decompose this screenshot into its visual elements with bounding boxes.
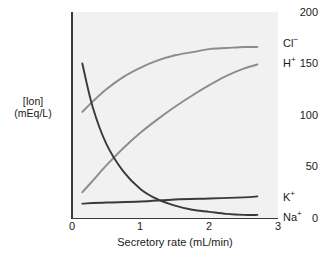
y-axis-title-line1: [Ion] <box>2 95 64 107</box>
series-curve-H⁺ <box>82 65 257 193</box>
x-tick-1: 1 <box>130 221 150 232</box>
series-curve-Cl⁻ <box>82 47 257 112</box>
series-curve-Na⁺ <box>82 64 257 215</box>
series-label-K⁺: K+ <box>283 192 295 203</box>
series-label-Na⁺: Na+ <box>283 212 302 223</box>
series-label-Cl⁻: Cl− <box>283 38 298 49</box>
x-axis-title: Secretory rate (mL/min) <box>72 236 278 248</box>
x-axis-line <box>71 218 278 220</box>
y-tick-50: 50 <box>256 161 318 172</box>
y-axis-line <box>71 12 73 219</box>
y-tick-200: 200 <box>256 7 318 18</box>
y-tick-100: 100 <box>256 110 318 121</box>
series-curve-K⁺ <box>82 196 257 203</box>
y-axis-title: [Ion] (mEq/L) <box>2 95 64 119</box>
y-axis-title-line2: (mEq/L) <box>2 107 64 119</box>
x-tick-2: 2 <box>199 221 219 232</box>
curves-layer <box>72 12 278 218</box>
ion-concentration-chart: 200 150 100 50 0 0 1 2 3 [Ion] (mEq/L) S… <box>0 0 318 256</box>
x-tick-0: 0 <box>62 221 82 232</box>
series-label-H⁺: H+ <box>283 58 296 69</box>
